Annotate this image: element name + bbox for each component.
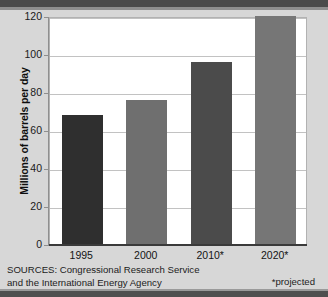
x-tick-label: 2000: [114, 249, 178, 261]
bar: [62, 115, 103, 244]
y-tick-mark: [44, 169, 48, 170]
y-tick-mark: [44, 93, 48, 94]
sources-line-1: SOURCES: Congressional Research Service: [7, 264, 199, 277]
plot-area: [49, 17, 307, 245]
y-tick-mark: [44, 131, 48, 132]
y-tick-label: 100: [2, 48, 42, 60]
y-tick-mark: [44, 55, 48, 56]
bottom-border-band: [0, 291, 328, 297]
x-axis-line: [49, 244, 307, 246]
y-tick-label: 40: [2, 162, 42, 174]
projected-footnote: *projected: [272, 276, 315, 287]
y-tick-label: 20: [2, 200, 42, 212]
chart-figure: Millions of barrels per day 020406080100…: [0, 0, 328, 297]
y-tick-label: 80: [2, 86, 42, 98]
x-tick-label: 2020*: [243, 249, 307, 261]
y-tick-mark: [44, 207, 48, 208]
y-tick-label: 120: [2, 10, 42, 22]
y-tick-mark: [44, 17, 48, 18]
y-tick-label: 60: [2, 124, 42, 136]
bar: [126, 100, 167, 244]
y-tick-mark: [44, 245, 48, 246]
x-tick-label: 1995: [49, 249, 113, 261]
y-tick-label: 0: [2, 238, 42, 250]
sources-note: SOURCES: Congressional Research Service …: [7, 264, 199, 289]
y-axis-line: [48, 17, 49, 246]
x-tick-label: 2010*: [178, 249, 242, 261]
top-border-band: [0, 0, 328, 9]
bar: [255, 16, 296, 244]
sources-line-2: and the International Energy Agency: [7, 277, 199, 290]
bar: [191, 62, 232, 244]
